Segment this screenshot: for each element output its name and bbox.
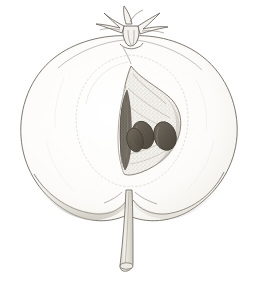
fruit-drawing-svg xyxy=(0,0,261,286)
botanical-illustration-canvas: Quince fruit, longitudinal section 3 xyxy=(0,0,261,286)
stem-cut-face xyxy=(120,263,133,269)
